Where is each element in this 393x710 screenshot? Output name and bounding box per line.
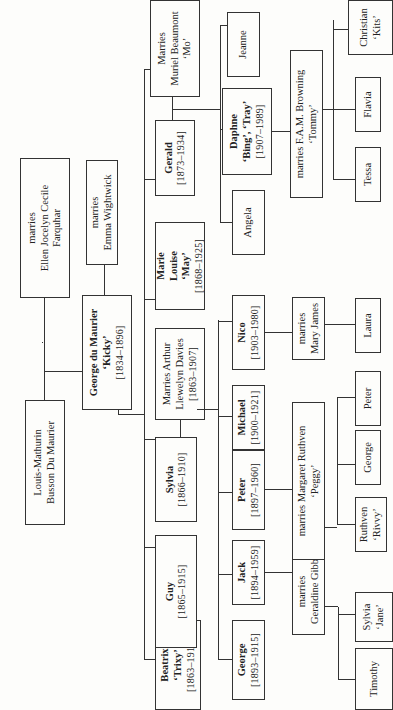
connector [104,265,105,295]
person-name: Jeanne [237,30,250,59]
connector [42,342,43,343]
connector [180,420,181,437]
connector [337,397,355,398]
spouse-nickname: ‘Peggy’ [309,464,322,497]
connector [144,70,145,660]
connector [218,574,232,575]
person-dates: [1863–1907] [187,347,199,401]
person-name: Laura [362,313,375,337]
person-nickname: ‘Bing’, ‘Tray’ [241,101,254,163]
connector [337,524,355,525]
connector [218,492,232,493]
person-marie-louise: Marie Louise ‘May’ [1868–1925] [155,222,205,310]
spouse-name: Muriel Beaumont [169,11,182,85]
connector [272,131,292,132]
person-guy: Guy [1865–1915] [155,535,197,648]
spouse-name: Geraldine Gibb [309,559,322,624]
connector [118,414,144,415]
spouse-mary-james: marries Mary James [292,297,325,360]
person-dates: [1873–1934] [175,131,187,185]
marries-label: marries [296,313,309,345]
marries-label: marries [296,576,309,608]
connector [325,324,355,325]
person-jack: Jack [1894–1959] [232,540,265,605]
connector [220,26,221,223]
person-nickname: ‘Jane’ [374,604,387,630]
marries-label: marries [26,212,39,244]
person-nickname: ‘May’ [180,252,193,279]
connector [325,606,338,607]
connector [144,179,155,180]
person-dates: [1897–1960] [249,463,261,517]
person-gerald: Gerald [1873–1934] [155,120,195,196]
person-nickname: ‘Rivvy’ [371,508,384,541]
person-name: Nico [236,322,249,342]
person-name: Ruthven [358,507,371,543]
person-sylvia-jane: Sylvia ‘Jane’ [355,592,393,642]
person-name: Tessa [362,163,375,186]
spouse-nickname: ‘Tommy’ [307,104,320,144]
person-name: Christian [358,8,371,47]
spouse-name: marries F.A.M. Browning [294,70,307,179]
person-name: Daphne [228,114,241,149]
person-sylvia: Sylvia [1866–1910] [155,437,197,522]
connector [144,299,155,300]
connector [218,320,219,660]
connector [333,109,355,110]
person-nickname: ‘Kits’ [371,15,384,40]
person-george-grandchild: George [355,430,381,485]
connector [218,659,232,660]
person-nico: Nico [1903–1980] [232,295,265,370]
person-dates: [1907–1989] [254,105,266,159]
connector [333,20,334,180]
spouse-name: Farquhar [51,209,64,247]
person-tessa: Tessa [355,147,381,202]
marries-label: marries [89,197,102,229]
person-nickname: ‘Trixy’ [172,649,185,680]
person-peter: Peter [1897–1960] [232,450,265,530]
person-dates: [1903–1980] [249,306,261,360]
person-timothy: Timothy [355,648,393,710]
person-peter-grandchild: Peter [355,371,381,426]
person-christian-kits: Christian ‘Kits’ [348,0,393,55]
spouse-geraldine-gibb: marries Geraldine Gibb [292,548,325,635]
person-name: Jack [236,562,249,583]
connector [338,679,355,680]
connector [337,398,338,525]
person-michael: Michael [1900–1921] [232,385,265,450]
spouse-ellen-farquhar: marries Ellen Jocelyn Cecile Farquhar [20,158,70,298]
marries-label: Marries Arthur [161,343,174,406]
connector [44,297,45,400]
name-line: Busson Du Maurier [45,421,58,504]
person-jeanne: Jeanne [227,12,260,77]
connector [144,439,155,440]
connector [325,527,337,528]
connector [144,547,155,548]
person-dates: [1894–1959] [249,546,261,600]
connector [218,321,232,322]
connector [265,572,292,573]
person-name: Angela [242,207,255,237]
person-george-llewelyn-davies: George [1893–1915] [232,620,265,700]
spouse-margaret-ruthven: marries Margaret Ruthven ‘Peggy’ [292,402,325,560]
connector [265,332,292,333]
connector [265,489,292,490]
person-name: Marie [155,252,168,279]
connector [220,222,232,223]
person-name: Gerald [163,142,176,174]
person-george-du-maurier: George du Maurier ‘Kicky’ [1834–1896] [82,295,132,410]
person-louis-mathurin: Louis-Mathurin Busson Du Maurier [25,400,65,525]
person-name: Flavia [362,91,375,117]
person-dates: [1868–1925] [193,239,205,293]
connector [218,416,232,417]
person-angela: Angela [232,190,265,255]
connector [172,109,220,110]
person-dates: [1866–1910] [176,453,188,507]
marries-label: Marries [156,32,169,65]
person-name: Sylvia [164,466,177,493]
name-line: Louis-Mathurin [32,429,45,496]
connector [338,607,339,680]
spouse-name: Ellen Jocelyn Cecile [39,185,52,271]
person-nickname: ‘Kicky’ [101,336,114,370]
person-name: Beatrix [159,648,172,681]
